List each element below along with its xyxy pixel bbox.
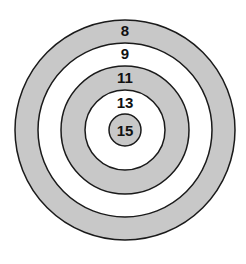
score-label-15: 15 <box>117 122 134 139</box>
score-label-9: 9 <box>121 45 129 62</box>
target-diagram: 8 9 11 13 15 <box>0 0 246 264</box>
score-label-8: 8 <box>121 22 129 39</box>
score-label-13: 13 <box>117 94 134 111</box>
score-label-11: 11 <box>117 69 133 86</box>
